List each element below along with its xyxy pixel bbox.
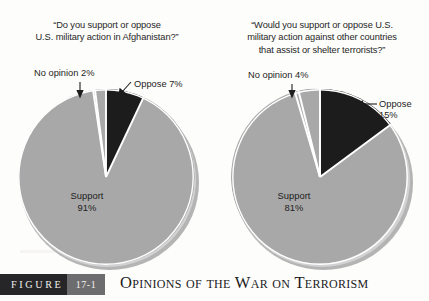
callout-no-opinion-other-countries: No opinion 4% — [248, 70, 308, 81]
pie-label-support-afghanistan: Support 91% — [42, 190, 132, 213]
figure-page: “Do you support or oppose U.S. military … — [0, 0, 429, 301]
pie-disc — [17, 88, 195, 266]
callout-no-opinion-afghanistan: No opinion 2% — [34, 68, 94, 79]
chart-panel-afghanistan: “Do you support or oppose U.S. military … — [0, 0, 214, 272]
figure-label-text: FIGURE — [11, 279, 63, 290]
callout-oppose-afghanistan: Oppose 7% — [134, 79, 183, 90]
figure-label-box: FIGURE — [0, 274, 72, 295]
callout-oppose-other-countries: Oppose 15% — [379, 99, 412, 122]
pie-chart-afghanistan — [17, 88, 199, 270]
figure-caption-bar: FIGURE 17-1 Opinions of the War on Terro… — [0, 271, 429, 301]
figure-title: Opinions of the War on Terrorism — [120, 273, 369, 293]
pie-label-support-other-countries: Support 81% — [249, 190, 339, 213]
figure-number-text: 17-1 — [76, 279, 97, 290]
chart-panel-other-countries: “Would you support or oppose U.S. milita… — [215, 0, 429, 272]
figure-number-box: 17-1 — [67, 274, 105, 295]
chart-title-afghanistan: “Do you support or oppose U.S. military … — [0, 19, 214, 44]
chart-title-other-countries: “Would you support or oppose U.S. milita… — [215, 19, 429, 56]
